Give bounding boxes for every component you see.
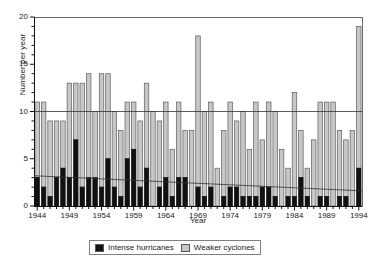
x-axis-tick-label: 1979 — [247, 212, 277, 220]
bar-intense-hurricanes — [228, 187, 233, 206]
bar-intense-hurricanes — [93, 178, 98, 206]
x-axis-tick-label: 1969 — [183, 212, 213, 220]
x-axis-tick-label: 1994 — [344, 212, 374, 220]
bar-weaker-cyclones — [286, 168, 291, 196]
bar-weaker-cyclones — [54, 121, 59, 178]
bar-intense-hurricanes — [86, 178, 91, 206]
bar-intense-hurricanes — [35, 178, 40, 206]
bar-intense-hurricanes — [131, 149, 136, 206]
bar-intense-hurricanes — [305, 197, 310, 206]
bar-weaker-cyclones — [131, 102, 136, 149]
legend-swatch-intense-hurricanes — [95, 244, 104, 252]
bar-intense-hurricanes — [80, 187, 85, 206]
bar-weaker-cyclones — [234, 121, 239, 187]
bar-intense-hurricanes — [337, 197, 342, 206]
bar-intense-hurricanes — [209, 187, 214, 206]
bar-intense-hurricanes — [74, 140, 79, 206]
legend-swatch-weaker-cyclones — [181, 244, 190, 252]
bar-weaker-cyclones — [344, 140, 349, 197]
bar-intense-hurricanes — [119, 197, 124, 206]
bar-weaker-cyclones — [273, 112, 278, 197]
bar-weaker-cyclones — [151, 112, 156, 207]
bar-weaker-cyclones — [157, 121, 162, 187]
bar-weaker-cyclones — [299, 130, 304, 177]
legend-item-weaker-cyclones: Weaker cyclones — [181, 243, 255, 252]
bar-weaker-cyclones — [93, 112, 98, 178]
bar-intense-hurricanes — [112, 187, 117, 206]
bar-weaker-cyclones — [176, 102, 181, 178]
bar-weaker-cyclones — [247, 149, 252, 196]
legend-item-intense-hurricanes: Intense hurricanes — [95, 243, 174, 252]
bar-intense-hurricanes — [48, 197, 53, 206]
bar-weaker-cyclones — [125, 102, 130, 159]
legend-label-weaker-cyclones: Weaker cyclones — [194, 243, 255, 252]
bar-intense-hurricanes — [324, 197, 329, 206]
bar-weaker-cyclones — [357, 26, 362, 168]
bar-intense-hurricanes — [106, 159, 111, 206]
bar-weaker-cyclones — [183, 130, 188, 177]
bar-intense-hurricanes — [170, 197, 175, 206]
bar-intense-hurricanes — [273, 197, 278, 206]
bar-weaker-cyclones — [266, 102, 271, 187]
bar-intense-hurricanes — [221, 197, 226, 206]
bar-intense-hurricanes — [260, 187, 265, 206]
bar-weaker-cyclones — [292, 93, 297, 197]
x-axis-tick-label: 1974 — [215, 212, 245, 220]
bar-weaker-cyclones — [279, 149, 284, 206]
legend-label-intense-hurricanes: Intense hurricanes — [108, 243, 174, 252]
bar-weaker-cyclones — [99, 74, 104, 187]
bar-weaker-cyclones — [324, 102, 329, 197]
y-axis-tick-label: 5 — [8, 155, 28, 163]
bar-weaker-cyclones — [170, 149, 175, 196]
bar-intense-hurricanes — [196, 187, 201, 206]
bar-weaker-cyclones — [35, 102, 40, 178]
bar-weaker-cyclones — [305, 168, 310, 196]
x-axis-tick-label: 1949 — [54, 212, 84, 220]
bar-weaker-cyclones — [164, 102, 169, 178]
bar-weaker-cyclones — [86, 74, 91, 178]
bar-weaker-cyclones — [228, 102, 233, 187]
bar-weaker-cyclones — [112, 112, 117, 188]
bar-intense-hurricanes — [176, 178, 181, 206]
bar-weaker-cyclones — [106, 74, 111, 159]
x-axis-tick-label: 1954 — [87, 212, 117, 220]
bar-weaker-cyclones — [254, 102, 259, 197]
bar-intense-hurricanes — [144, 168, 149, 206]
bar-intense-hurricanes — [241, 197, 246, 206]
bar-intense-hurricanes — [67, 178, 72, 206]
bar-weaker-cyclones — [67, 83, 72, 177]
x-axis-tick-label: 1944 — [22, 212, 52, 220]
bar-intense-hurricanes — [357, 168, 362, 206]
bar-intense-hurricanes — [292, 197, 297, 206]
bar-intense-hurricanes — [41, 187, 46, 206]
bar-weaker-cyclones — [209, 102, 214, 187]
bar-weaker-cyclones — [61, 121, 66, 168]
x-axis-tick-label: 1964 — [151, 212, 181, 220]
bar-weaker-cyclones — [48, 121, 53, 197]
bar-weaker-cyclones — [80, 83, 85, 187]
bar-intense-hurricanes — [318, 197, 323, 206]
chart-legend: Intense hurricanes Weaker cyclones — [89, 240, 261, 255]
bar-weaker-cyclones — [331, 102, 336, 206]
bar-intense-hurricanes — [99, 187, 104, 206]
bar-intense-hurricanes — [234, 187, 239, 206]
bar-weaker-cyclones — [241, 112, 246, 197]
bar-weaker-cyclones — [260, 140, 265, 187]
bar-intense-hurricanes — [61, 168, 66, 206]
bar-weaker-cyclones — [337, 130, 342, 196]
bar-weaker-cyclones — [119, 130, 124, 196]
bar-weaker-cyclones — [41, 102, 46, 187]
x-axis-tick-label: 1959 — [119, 212, 149, 220]
bar-weaker-cyclones — [138, 121, 143, 187]
y-axis-tick-label: 20 — [8, 13, 28, 21]
bar-weaker-cyclones — [189, 130, 194, 206]
bar-weaker-cyclones — [144, 83, 149, 168]
y-axis-tick-label: 15 — [8, 60, 28, 68]
bar-intense-hurricanes — [247, 197, 252, 206]
x-axis-tick-label: 1984 — [279, 212, 309, 220]
bar-intense-hurricanes — [286, 197, 291, 206]
bar-intense-hurricanes — [266, 187, 271, 206]
bar-weaker-cyclones — [312, 140, 317, 206]
bar-intense-hurricanes — [254, 197, 259, 206]
bar-intense-hurricanes — [138, 187, 143, 206]
